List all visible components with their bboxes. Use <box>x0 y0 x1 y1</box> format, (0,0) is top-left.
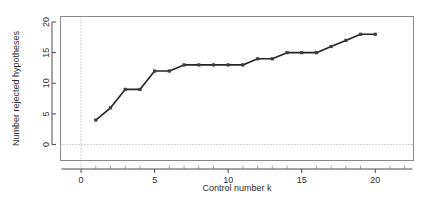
y-axis-tick-label: 0 <box>41 142 51 147</box>
y-axis-tick-label: 10 <box>41 78 51 88</box>
data-point <box>197 63 200 66</box>
data-point <box>256 57 259 60</box>
data-point <box>271 57 274 60</box>
data-point <box>212 63 215 66</box>
y-axis-tick-label: 5 <box>41 111 51 116</box>
data-point <box>330 45 333 48</box>
data-point <box>227 63 230 66</box>
data-point <box>300 51 303 54</box>
chart-figure: 05101520 05101520 Control number k Numbe… <box>0 0 438 205</box>
x-axis-tick-label: 15 <box>297 175 307 185</box>
data-point <box>285 51 288 54</box>
data-point <box>168 69 171 72</box>
x-axis-tick-label: 0 <box>79 175 84 185</box>
data-point <box>344 39 347 42</box>
data-point <box>109 106 112 109</box>
x-axis-tick-label: 5 <box>152 175 157 185</box>
line-chart: 05101520 05101520 Control number k Numbe… <box>0 0 438 205</box>
data-point <box>241 63 244 66</box>
data-point <box>374 33 377 36</box>
y-axis-title: Number rejected hypotheses <box>11 30 21 146</box>
x-axis-tick-label: 20 <box>370 175 380 185</box>
data-point <box>359 33 362 36</box>
data-point <box>153 69 156 72</box>
data-point <box>315 51 318 54</box>
y-axis-tick-label: 20 <box>41 17 51 27</box>
data-point <box>182 63 185 66</box>
y-axis-tick-label: 15 <box>41 48 51 58</box>
data-point <box>124 88 127 91</box>
data-point <box>94 118 97 121</box>
data-point <box>138 88 141 91</box>
x-axis-title: Control number k <box>202 183 272 193</box>
